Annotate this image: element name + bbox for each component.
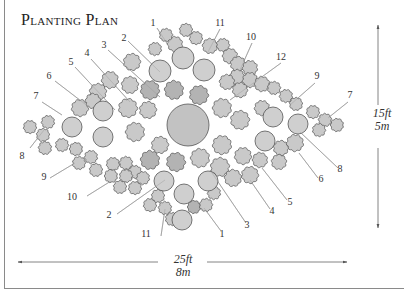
shrub-icon — [241, 166, 258, 183]
shrub-icon — [106, 157, 120, 170]
shrub-icon — [190, 85, 209, 104]
plant-number-label: 7 — [34, 90, 39, 101]
tree-circle-icon — [198, 171, 218, 191]
plant-number-label: 4 — [85, 47, 90, 58]
shrub-icon — [306, 105, 320, 118]
tree-circle-icon — [172, 210, 192, 230]
width-dimension-label: 25ft 8m — [160, 253, 206, 279]
tree-circle-icon — [193, 59, 215, 81]
shrub-icon — [119, 98, 138, 117]
page-title: Planting Plan — [21, 11, 118, 29]
shrub-icon — [224, 169, 241, 186]
shrub-icon — [89, 163, 102, 176]
shrub-icon — [121, 76, 138, 93]
tree-circle-icon — [172, 47, 194, 69]
shrub-icon — [234, 148, 251, 165]
plant-number-label: 6 — [319, 173, 324, 184]
shrub-icon — [286, 134, 303, 151]
shrub-icon — [128, 181, 142, 194]
tree-circle-icon — [93, 127, 113, 147]
tree-circle-icon — [149, 60, 171, 82]
plant-number-label: 7 — [348, 89, 353, 100]
shrub-icon — [212, 98, 231, 117]
shrub-icon — [279, 89, 293, 102]
tree-circle-icon — [62, 117, 82, 137]
shrub-icon — [113, 180, 126, 193]
shrub-icon — [254, 76, 269, 92]
plant-number-label: 2 — [107, 209, 112, 220]
plant-number-label: 1 — [151, 17, 156, 28]
tree-circle-icon — [263, 107, 283, 127]
shrub-icon — [312, 123, 325, 137]
shrub-icon — [36, 128, 49, 141]
width-m: 8m — [160, 266, 206, 279]
shrub-icon — [148, 42, 162, 55]
plant-number-label: 11 — [141, 228, 151, 239]
shrub-icon — [84, 150, 98, 163]
height-m: 5m — [367, 120, 397, 133]
plant-number-label: 5 — [69, 56, 74, 67]
shrub-icon — [212, 136, 231, 155]
shrub-icon — [252, 152, 267, 168]
plant-number-label: 6 — [47, 70, 52, 81]
shrub-icon — [151, 136, 168, 153]
shrub-icon — [123, 53, 140, 70]
shrub-icon — [41, 115, 55, 128]
shrub-icon — [139, 101, 156, 118]
plant-number-label: 4 — [270, 205, 275, 216]
shrub-icon — [330, 118, 343, 132]
plant-number-label: 8 — [338, 163, 343, 174]
plant-number-label: 10 — [246, 31, 256, 42]
shrub-icon — [72, 156, 85, 170]
tree-circle-icon — [174, 184, 194, 204]
plant-number-label: 9 — [315, 70, 320, 81]
plant-number-label: 9 — [42, 171, 47, 182]
plant-number-label: 3 — [102, 39, 107, 50]
shrub-icon — [219, 74, 234, 89]
plant-number-label: 8 — [20, 150, 25, 161]
plant-number-label: 10 — [67, 191, 77, 202]
shrub-icon — [140, 81, 159, 100]
shrub-icon — [55, 138, 68, 152]
shrub-icon — [23, 120, 37, 133]
tree-circle-icon — [255, 131, 275, 151]
shrub-icon — [202, 38, 217, 53]
shrub-icon — [199, 198, 212, 212]
shrub-icon — [267, 81, 280, 95]
height-dimension-label: 15ft 5m — [367, 107, 397, 133]
shrub-icon — [167, 152, 186, 171]
shrub-icon — [125, 122, 144, 141]
tree-circle-icon — [288, 114, 308, 134]
plant-number-label: 12 — [276, 51, 286, 62]
shrub-icon — [271, 154, 286, 169]
plant-number-label: 2 — [122, 32, 127, 43]
shrub-icon — [69, 142, 82, 156]
shrub-icon — [190, 148, 209, 167]
tree-circle-icon — [93, 101, 113, 121]
plant-number-label: 3 — [245, 219, 250, 230]
shrub-icon — [231, 110, 250, 129]
tree-circle-icon — [167, 104, 209, 146]
plant-number-label: 11 — [215, 17, 225, 28]
plant-number-label: 1 — [220, 228, 225, 239]
shrub-icon — [38, 141, 52, 154]
plant-number-label: 5 — [288, 196, 293, 207]
shrub-icon — [164, 80, 183, 99]
